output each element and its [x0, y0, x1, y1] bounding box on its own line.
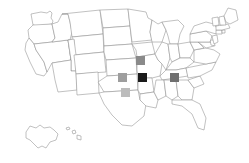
state-newmexico [76, 72, 99, 95]
state-alabama [164, 80, 178, 100]
state-connecticut [216, 30, 222, 34]
state-colorado [74, 52, 106, 74]
state-hawaii-2 [72, 130, 76, 134]
contiguous-states [25, 8, 238, 130]
kansas-marker [118, 73, 127, 82]
state-northdakota [100, 9, 130, 28]
state-washington [31, 11, 53, 26]
state-rhodeisland [222, 30, 225, 33]
state-hawaii-1 [66, 127, 70, 130]
state-minnesota [128, 9, 152, 42]
state-southdakota [103, 26, 132, 46]
state-hawaii-3 [77, 135, 81, 140]
us-map-figure [0, 0, 249, 163]
state-wyoming [72, 34, 104, 55]
state-alaska [26, 125, 58, 148]
state-insets [26, 125, 81, 148]
oklahoma-marker [121, 88, 130, 97]
state-virginia [194, 48, 220, 64]
tennessee-marker [170, 73, 179, 82]
iowa-marker [136, 56, 145, 65]
missouri-marker [138, 73, 147, 82]
state-nebraska [104, 44, 136, 60]
state-oregon [28, 24, 55, 44]
state-florida [172, 100, 206, 130]
state-vermont [212, 17, 219, 26]
state-maine [224, 8, 238, 24]
